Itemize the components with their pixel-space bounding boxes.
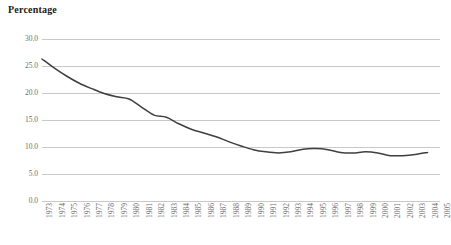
y-axis-tick-label: 15.0 (2, 115, 38, 124)
plot-area (42, 39, 440, 201)
x-axis-tick-label: 1998 (356, 203, 365, 218)
y-axis: 30.025.020.015.010.05.00.0 (0, 39, 38, 201)
x-axis-tick-label: 1982 (157, 203, 166, 218)
y-axis-tick-label: 0.0 (2, 196, 38, 205)
x-axis-tick-label: 1973 (45, 203, 54, 218)
x-axis-tick-label: 1997 (344, 203, 353, 218)
x-axis-tick-label: 1978 (107, 203, 116, 218)
y-axis-tick-label: 5.0 (2, 169, 38, 178)
x-axis: 1973197419751976197719781979198019811982… (42, 203, 440, 245)
y-axis-tick-label: 20.0 (2, 88, 38, 97)
chart-title: Percentage (8, 4, 57, 15)
x-axis-tick-label: 1985 (194, 203, 203, 218)
x-axis-tick-label: 2003 (418, 203, 427, 218)
y-axis-tick-label: 30.0 (2, 34, 38, 43)
x-axis-tick-label: 1975 (70, 203, 79, 218)
x-axis-tick-label: 1999 (369, 203, 378, 218)
x-axis-tick-label: 1996 (331, 203, 340, 218)
y-axis-tick-label: 10.0 (2, 142, 38, 151)
x-axis-tick-label: 1990 (257, 203, 266, 218)
x-axis-tick-label: 2005 (443, 203, 451, 218)
x-axis-tick-label: 1984 (182, 203, 191, 218)
x-axis-tick-label: 2002 (406, 203, 415, 218)
x-axis-tick-label: 2001 (393, 203, 402, 218)
x-axis-tick-label: 1983 (170, 203, 179, 218)
gridline (42, 201, 440, 202)
x-axis-tick-label: 1976 (83, 203, 92, 218)
x-axis-tick-label: 1974 (58, 203, 67, 218)
x-axis-tick-label: 1994 (306, 203, 315, 218)
series-line (42, 59, 428, 156)
y-axis-tick-label: 25.0 (2, 61, 38, 70)
x-axis-tick-label: 2000 (381, 203, 390, 218)
x-axis-tick-label: 1987 (219, 203, 228, 218)
x-axis-tick-label: 1992 (282, 203, 291, 218)
line-chart: Percentage 30.025.020.015.010.05.00.0 19… (0, 0, 451, 245)
x-axis-tick-label: 1995 (319, 203, 328, 218)
x-axis-tick-label: 1991 (269, 203, 278, 218)
x-axis-tick-label: 1977 (95, 203, 104, 218)
x-axis-tick-label: 1979 (120, 203, 129, 218)
series-percentage (42, 39, 440, 201)
x-axis-tick-label: 1986 (207, 203, 216, 218)
x-axis-tick-label: 1993 (294, 203, 303, 218)
x-axis-tick-label: 1980 (132, 203, 141, 218)
x-axis-tick-label: 1988 (232, 203, 241, 218)
x-axis-tick-label: 2004 (431, 203, 440, 218)
x-axis-tick-label: 1981 (145, 203, 154, 218)
x-axis-tick-label: 1989 (244, 203, 253, 218)
